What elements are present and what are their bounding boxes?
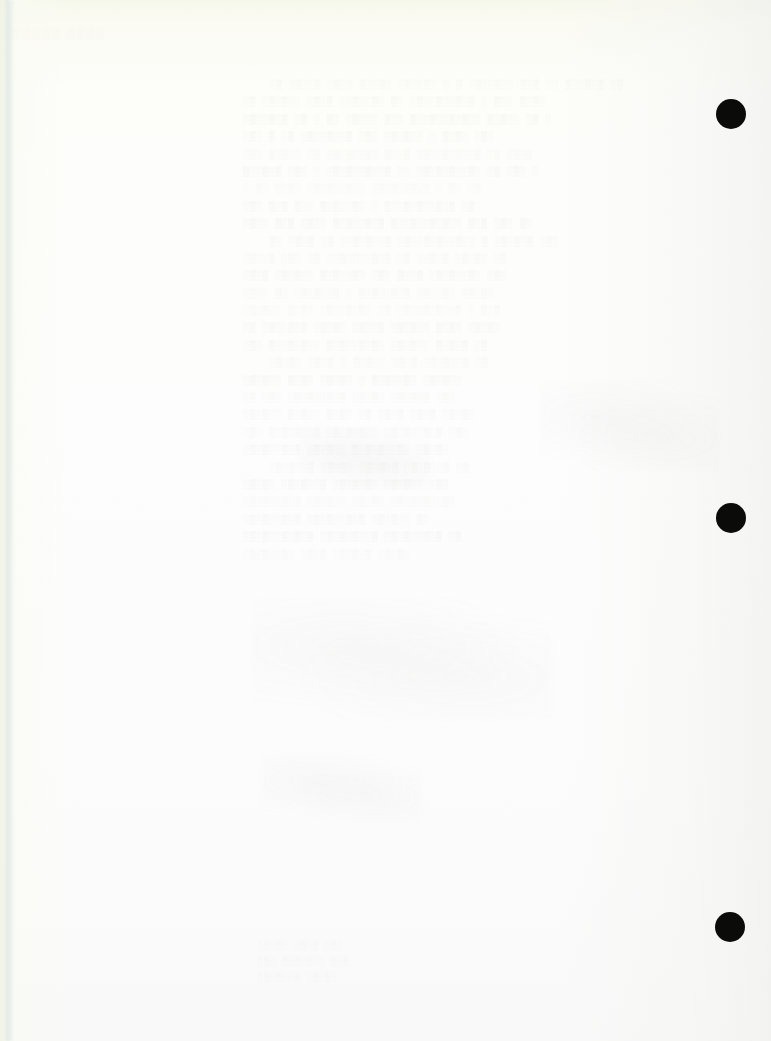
ghost-text-line: ░▒░▒░ ░▒░▒ ░▒░ [258, 938, 472, 954]
ghost-text-line: ░▒░░▒ ░▒░ ░▒ ░░▒░▒░░▒░▒ ░▒ ░░▒░▒ ░▒░▒░ ░… [243, 250, 704, 267]
ghost-text-line: ░▒ ░▒░░▒ ░▒░░ ▒░░▒░ ░▒░░▒░ ░ ▒ ░▒░░▒░░ ▒… [243, 76, 704, 93]
ghost-text-line: ░▒░ ▒ ░▒ ░▒░░▒░░▒ ░▒░ ░▒░▒░░ ░ ▒░▒░ ░▒░ [243, 128, 704, 145]
ghost-text-line: ░▒░▒░ ░▒░▒ ░ ▒░▒░░ ░▒░▒ ░▒░▒░░▒ ░▒ [243, 354, 704, 371]
ghost-text-line: ░▒░ ▒░▒░░ ░▒ ░▒░▒░░▒░ ▒░░▒ ░▒░░▒░▒░░▒ ░▒… [243, 146, 704, 163]
ghost-text-line: ░▒░░ ▒░ ░▒░▒░░▒ ░ ▒░▒░░▒░▒ ░▒░░▒░ ░▒░▒░ [243, 285, 704, 302]
ghost-text-line: ░▒░░ ▒░▒ ░▒░░ ▒░▒░░▒░▒ ▒░░▒░░▒░▒░░ ▒░▒ ░… [243, 215, 704, 232]
ghost-text-line: ░▒ ░▒░ ░▒░▒░░▒░▒ ░▒░▒░ ░▒░▒░▒ ░▒░ [243, 389, 704, 406]
ghost-text-line: ░▒░▒░░▒ ░▒░▒░ [258, 970, 472, 986]
ghost-text-line: ░▒░▒░░▒░▒ ░▒░▒░░▒░▒ ░▒░▒░░ ▒░ [243, 511, 704, 528]
ghost-text-line: ░▒░▒░░ ▒░▒░ ░▒░▒░ ░ ▒░▒░░▒░ ░▒░▒░░ [243, 372, 704, 389]
ghost-text-line: ░▒░▒░ ░▒░▒░░▒ ░▒░▒░▒░ ░▒░▒░░ ░▒░ [243, 476, 704, 493]
ghost-text-line: ░▒░▒░░▒░ ░▒░▒ ░▒░▒░▒ ░▒░▒░ [243, 546, 704, 563]
ghost-text-line: ░ ▒░ ▒░▒░ ░▒░▒░░▒░░ ░▒░▒░░▒░▒ ░ ▒░ ░▒ [243, 180, 704, 197]
ghost-text-line: ▒░ ░▒░▒ ░▒ ░░▒░▒░░▒ ░▒░░▒░▒░░▒░░ ▒ ░▒░▒░… [243, 233, 704, 250]
ghost-text-line: ░▒░▒ ░▒░▒░░ ▒░▒░░▒░ ░▒░ ▒░░▒ ░▒░▒░░▒░ ░▒… [243, 267, 704, 284]
ghost-text-line: ░▒░▒░░▒░▒ ░▒░▒░░ ▒░▒░▒░░▒░ ░▒░▒░ [243, 441, 704, 458]
scanned-page: ░░░░░ ░░░░ ░▒ ░▒░░▒ ░▒░░ ▒░░▒░ ░▒░░▒░ ░ … [0, 0, 771, 1041]
ghost-text-line: ░▒░▒░░▒ ░▒░▒░ ░▒░▒░▒ ░▒░▒░░▒ ░▒ [243, 459, 704, 476]
ghost-text-line: ░▒░░▒░▒ ░▒ ░ ▒░ ░▒░░░ ▒░░ ▒░░▒░░▒░▒░░ ▒░… [243, 111, 704, 128]
ghost-text-line: ░▒░▒░░ ▒░▒░ ░▒░░▒░▒░ ░▒ ░▒░░▒░▒░░▒ ░ ▒░▒ [243, 302, 704, 319]
ghost-text-line: ░▒░ ▒░▒ ▒░░ ▒░▒░░▒░ ░ ▒░░▒░▒░░▒░▒ ░▒ [243, 198, 704, 215]
ghost-text-line: ░▒░ ▒░▒░▒░░ ▒░▒ [258, 954, 472, 970]
ghost-text-line: ▒░░▒░▒ ░▒░ ░ ░▒░▒░░▒░░▒ ░░ ░▒░▒░▒░░▒░ ░▒… [243, 163, 704, 180]
bleed-through-text-block: ░▒ ░▒░░▒ ░▒░░ ▒░░▒░ ░▒░░▒░ ░ ▒ ░▒░░▒░░ ▒… [243, 76, 695, 563]
corner-stamp-ghost: ░░░░░ ░░░░ [12, 26, 140, 52]
ghost-text-line: ░▒░ ▒░░▒░▒░░ ▒░▒░░▒░▒░ ░▒░▒░░ ▒░▒░▒ ░▒ [243, 337, 704, 354]
ghost-text-line: ░▒░ ▒░▒░▒░░▒ ░▒░▒░▒░░ ░▒░▒░░▒░▒ ░▒░ [243, 424, 704, 441]
ghost-text-line: ░▒ ░▒░▒░░ ░▒░▒ ░░▒░░▒░ ▒░ ░▒░░▒░░▒░▒ ░ ▒… [243, 93, 704, 110]
ghost-text-line: ░▒ ░▒░░▒░▒ ░▒░▒░ ░▒░░▒ ░▒░▒░░ ▒░▒░ ░▒░▒░ [243, 319, 704, 336]
ghost-text-line: ░▒░▒░░▒░▒░▒ ░▒░▒░▒░░▒ ░▒░▒░░▒░▒ ░▒ [243, 528, 704, 545]
lower-ghost-text: ░▒░▒░ ░▒░▒ ░▒░░▒░ ▒░▒░▒░░ ▒░▒ ░▒░▒░░▒ ░▒… [258, 938, 468, 986]
punch-hole-top [716, 99, 746, 129]
punch-hole-middle [716, 503, 746, 533]
ghost-text-line: ░▒░▒░░▒░▒ ░▒░▒░░ ░▒░▒░ ░▒░▒░▒░░▒░ [243, 493, 704, 510]
ghost-text-line: ░▒░▒░░ ▒░▒░░ ▒░▒░ ░▒ ░▒░▒ ░▒░▒ ░▒░▒░ [243, 406, 704, 423]
punch-hole-bottom [715, 912, 745, 942]
